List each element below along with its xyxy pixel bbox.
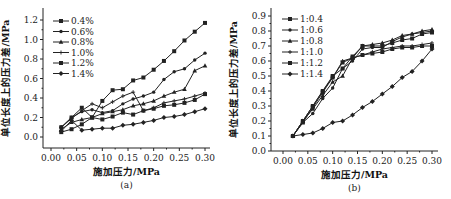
diamond-marker [151, 118, 156, 123]
legend-item: 1:0.8 [282, 36, 323, 46]
diamond-marker [131, 122, 136, 127]
subfigure-caption: (b) [348, 183, 361, 193]
y-tick-label: 0.8 [24, 54, 39, 64]
x-tick-label: 0.00 [41, 153, 61, 163]
legend-label: 1:1.4 [300, 69, 323, 79]
square-marker [131, 113, 135, 117]
legend-label: 1.2% [71, 58, 94, 68]
cross-marker [59, 51, 63, 55]
dot-marker [162, 78, 165, 81]
y-tick-label: 0.2 [24, 113, 38, 123]
legend-label: 1:1.2 [300, 58, 323, 68]
y-tick-label: 0.3 [252, 101, 267, 111]
diamond-marker [161, 115, 166, 120]
square-marker [380, 50, 384, 54]
figure-canvas: 0.00.20.40.60.81.01.20.000.050.100.150.2… [0, 0, 451, 199]
x-tick-label: 0.25 [397, 156, 417, 166]
chart-b: 0.00.10.20.30.40.50.60.70.80.90.000.050.… [228, 8, 442, 193]
square-marker [203, 21, 207, 25]
y-tick-label: 0.4 [252, 86, 267, 96]
square-marker [301, 121, 305, 125]
diamond-marker [59, 71, 64, 76]
y-tick-label: 0.2 [252, 116, 266, 126]
dot-marker [341, 67, 344, 70]
diamond-marker [90, 127, 95, 132]
diamond-marker [310, 131, 315, 136]
x-tick-label: 0.10 [92, 153, 112, 163]
legend-label: 0.8% [71, 37, 94, 47]
square-marker [121, 111, 125, 115]
legend-item: 1.4% [53, 69, 94, 79]
x-tick-label: 0.30 [195, 153, 215, 163]
square-marker [311, 106, 315, 110]
square-marker [203, 92, 207, 96]
square-marker [321, 91, 325, 95]
y-tick-label: 0.6 [24, 74, 39, 84]
dot-marker [288, 28, 291, 31]
subfigure-caption: (a) [120, 180, 132, 190]
square-marker [182, 38, 186, 42]
square-marker [410, 46, 414, 50]
square-marker [172, 103, 176, 107]
square-marker [70, 127, 74, 131]
x-tick-label: 0.25 [169, 153, 189, 163]
square-marker [121, 87, 125, 91]
legend-item: 1:1.0 [282, 47, 323, 57]
dot-marker [131, 97, 134, 100]
x-tick-label: 0.10 [323, 156, 343, 166]
triangle-marker [430, 27, 435, 31]
x-tick-label: 0.15 [118, 153, 138, 163]
cross-marker [131, 90, 135, 94]
square-marker [182, 101, 186, 105]
x-tick-label: 0.05 [67, 153, 87, 163]
square-marker [100, 99, 104, 103]
cross-marker [182, 97, 186, 101]
square-marker [59, 19, 63, 23]
y-axis-title: 单位长度上的压力差/MPa [0, 19, 11, 136]
legend-label: 1:0.6 [300, 25, 323, 35]
dot-marker [193, 58, 196, 61]
legend-label: 1:0.8 [300, 36, 323, 46]
diamond-marker [141, 120, 146, 125]
figure: 0.00.20.40.60.81.01.20.000.050.100.150.2… [0, 0, 451, 199]
dot-marker [311, 112, 314, 115]
dot-marker [173, 70, 176, 73]
y-tick-label: 1.2 [24, 15, 38, 25]
diamond-marker [182, 112, 187, 117]
square-marker [162, 104, 166, 108]
y-tick-label: 0.5 [252, 71, 267, 81]
triangle-marker [203, 63, 208, 67]
y-tick-label: 1.0 [24, 35, 39, 45]
square-marker [288, 61, 292, 65]
dot-marker [371, 46, 374, 49]
legend-label: 1:1.0 [300, 47, 323, 57]
y-tick-label: 0.4 [24, 93, 39, 103]
y-tick-label: 0.1 [252, 131, 266, 141]
legend-item: 0.8% [53, 37, 94, 47]
square-marker [288, 17, 292, 21]
cross-marker [111, 100, 115, 104]
cross-marker [172, 99, 176, 103]
y-axis-title: 单位长度上的压力差/MPa [228, 21, 239, 138]
y-tick-label: 0.0 [24, 132, 39, 142]
square-marker [152, 68, 156, 72]
dot-marker [152, 90, 155, 93]
x-tick-label: 0.05 [298, 156, 318, 166]
legend-item: 1:1.2 [282, 58, 323, 68]
square-marker [410, 37, 414, 41]
square-marker [193, 30, 197, 34]
legend-item: 0.6% [53, 27, 94, 37]
square-marker [141, 109, 145, 113]
square-marker [390, 47, 394, 51]
diamond-marker [192, 109, 197, 114]
square-marker [111, 115, 115, 119]
x-tick-label: 0.00 [273, 156, 293, 166]
cross-marker [193, 94, 197, 98]
diamond-marker [340, 119, 345, 124]
legend-item: 0.4% [53, 16, 94, 26]
x-tick-label: 0.15 [347, 156, 367, 166]
y-tick-label: 0.9 [252, 11, 267, 21]
square-marker [351, 56, 355, 60]
square-marker [400, 46, 404, 50]
dot-marker [142, 94, 145, 97]
